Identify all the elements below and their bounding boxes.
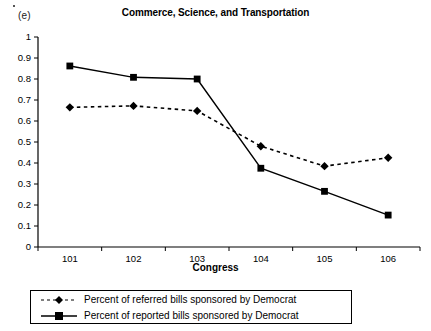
y-tick-label: 0.4 xyxy=(18,157,31,168)
data-point-marker xyxy=(66,63,73,70)
legend-sample-solid-square xyxy=(39,309,79,323)
legend-label-referred: Percent of referred bills sponsored by D… xyxy=(84,294,296,305)
data-point-marker xyxy=(129,102,137,110)
chart-figure: (e) Commerce, Science, and Transportatio… xyxy=(0,0,431,331)
legend-item-reported: Percent of reported bills sponsored by D… xyxy=(31,307,351,324)
series-markers xyxy=(66,63,393,219)
data-point-marker xyxy=(66,103,74,111)
series-line-0 xyxy=(70,106,388,166)
y-tick-label: 0.5 xyxy=(18,136,31,147)
y-axis-ticks: 00.10.20.30.40.50.60.70.80.91 xyxy=(18,31,38,252)
data-point-marker xyxy=(130,74,137,81)
plot-area: 00.10.20.30.40.50.60.70.80.91 1011021031… xyxy=(0,0,431,290)
series-lines xyxy=(70,66,388,215)
y-tick-label: 0.1 xyxy=(18,220,31,231)
y-tick-label: 0.3 xyxy=(18,178,31,189)
data-point-marker xyxy=(321,188,328,195)
data-point-marker xyxy=(257,142,265,150)
data-point-marker xyxy=(320,162,328,170)
y-tick-label: 0 xyxy=(26,241,31,252)
y-tick-label: 0.7 xyxy=(18,94,31,105)
data-point-marker xyxy=(193,107,201,115)
data-point-marker xyxy=(384,154,392,162)
legend-item-referred: Percent of referred bills sponsored by D… xyxy=(31,291,351,308)
legend-sample-dashed-diamond xyxy=(39,293,79,307)
y-tick-label: 0.9 xyxy=(18,52,31,63)
data-point-marker xyxy=(385,212,392,219)
legend-label-reported: Percent of reported bills sponsored by D… xyxy=(84,310,299,321)
y-tick-label: 0.8 xyxy=(18,73,31,84)
series-line-1 xyxy=(70,66,388,215)
y-tick-label: 0.2 xyxy=(18,199,31,210)
y-tick-label: 0.6 xyxy=(18,115,31,126)
data-point-marker xyxy=(257,165,264,172)
data-point-marker xyxy=(194,76,201,83)
y-tick-label: 1 xyxy=(26,31,31,42)
chart-legend: Percent of referred bills sponsored by D… xyxy=(30,290,352,324)
x-axis-label: Congress xyxy=(0,262,431,273)
